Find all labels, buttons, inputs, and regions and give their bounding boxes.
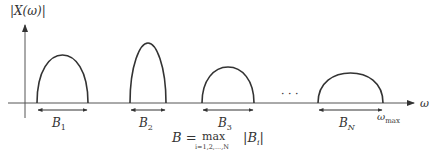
svg-text:B =: B = xyxy=(171,130,197,145)
ellipsis: · · · xyxy=(281,88,298,101)
band-2-spectrum xyxy=(130,43,166,103)
band-n-label: BN xyxy=(338,116,356,132)
svg-text:|Bi|: |Bi| xyxy=(243,130,264,147)
band-1-label: B1 xyxy=(51,116,66,132)
omega-max-label: ωmax xyxy=(377,111,400,125)
y-axis-label: |X(ω)| xyxy=(10,4,46,18)
bandwidth-diagram: |X(ω)| ω · · · B1 B2 B3 BN ωmax B = max … xyxy=(0,0,434,157)
band-3-spectrum xyxy=(202,67,254,103)
band-n-spectrum xyxy=(318,73,383,103)
svg-text:i=1,2,...,N: i=1,2,...,N xyxy=(195,143,229,151)
band-2-label: B2 xyxy=(138,116,153,132)
band-1-spectrum xyxy=(37,55,88,103)
max-bandwidth-formula: B = max i=1,2,...,N |Bi| xyxy=(171,130,264,151)
svg-text:max: max xyxy=(202,130,226,143)
x-axis-label: ω xyxy=(420,97,429,110)
